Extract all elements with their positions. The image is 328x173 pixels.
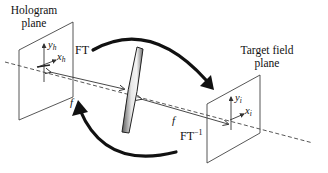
focal-length-left-arrow <box>50 72 124 89</box>
focal-length-left-label: f <box>70 97 73 108</box>
target-plane-title-line1: Target field <box>232 44 302 57</box>
inverse-transform-label: FT−1 <box>180 130 203 142</box>
focal-length-right-arrow <box>141 99 228 124</box>
target-plane-title-line2: plane <box>232 57 302 70</box>
target-plane-title: Target field plane <box>232 44 302 70</box>
target-x-axis <box>230 114 244 120</box>
target-y-label: yi <box>235 93 242 104</box>
target-x-label: xi <box>245 106 252 117</box>
hologram-y-label: yh <box>48 40 56 51</box>
hologram-plane <box>19 22 73 120</box>
forward-transform-label: FT <box>75 44 89 56</box>
hologram-x-label: xh <box>57 52 65 63</box>
lens <box>122 47 143 133</box>
hologram-plane-title-line1: Hologram <box>4 4 64 17</box>
target-field-plane <box>207 75 260 163</box>
forward-transform-arrow <box>93 39 214 90</box>
hologram-plane-title-line2: plane <box>4 17 64 30</box>
hologram-plane-title: Hologram plane <box>4 4 64 30</box>
focal-length-right-label: f <box>172 115 175 126</box>
optical-axis <box>5 62 313 143</box>
